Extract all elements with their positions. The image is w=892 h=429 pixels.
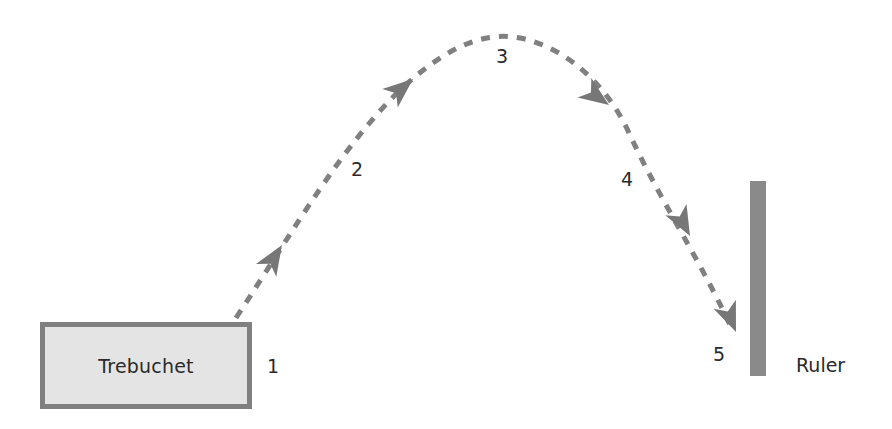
trajectory-path — [236, 36, 730, 325]
ruler-label: Ruler — [796, 354, 845, 376]
point-label-2: 2 — [351, 160, 363, 179]
point-label-3: 3 — [496, 47, 508, 66]
arrowhead-icon — [382, 70, 420, 108]
point-label-4: 4 — [621, 170, 633, 189]
arrowhead-icon — [256, 239, 292, 277]
ruler-bar — [750, 181, 766, 376]
point-label-1: 1 — [267, 357, 279, 376]
trajectory-diagram: Trebuchet 1 2 3 4 5 Ruler — [0, 0, 892, 429]
trebuchet-label: Trebuchet — [98, 355, 193, 377]
point-label-5: 5 — [713, 345, 725, 364]
trebuchet-box: Trebuchet — [40, 322, 252, 409]
